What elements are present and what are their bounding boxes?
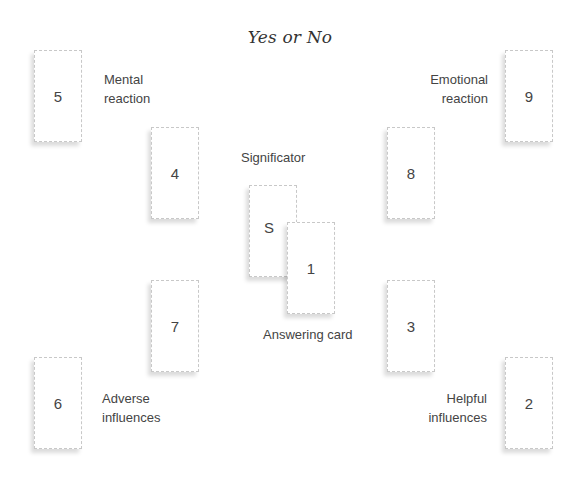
card-number: S xyxy=(264,219,274,236)
card-number: 1 xyxy=(307,260,315,277)
card-5[interactable]: 5 xyxy=(34,50,82,142)
card-number: 4 xyxy=(171,165,179,182)
card-7[interactable]: 7 xyxy=(151,280,199,372)
label-helpful-influences: Helpful influences xyxy=(396,389,487,427)
label-line: Adverse xyxy=(102,389,161,408)
spread-title: Yes or No xyxy=(240,27,340,47)
card-3[interactable]: 3 xyxy=(387,280,435,372)
label-answering-card: Answering card xyxy=(263,325,353,344)
card-6[interactable]: 6 xyxy=(34,357,82,449)
label-mental-reaction: Mental reaction xyxy=(104,70,150,108)
card-8[interactable]: 8 xyxy=(387,127,435,219)
card-1[interactable]: 1 xyxy=(287,222,335,314)
card-number: 8 xyxy=(407,165,415,182)
label-line: reaction xyxy=(396,89,488,108)
card-4[interactable]: 4 xyxy=(151,127,199,219)
label-line: Mental xyxy=(104,70,150,89)
card-number: 3 xyxy=(407,318,415,335)
card-number: 2 xyxy=(525,395,533,412)
card-number: 9 xyxy=(525,88,533,105)
label-line: influences xyxy=(102,408,161,427)
label-line: Emotional xyxy=(396,70,488,89)
card-number: 7 xyxy=(171,318,179,335)
label-significator: Significator xyxy=(241,148,305,167)
label-adverse-influences: Adverse influences xyxy=(102,389,161,427)
label-line: influences xyxy=(396,408,487,427)
label-emotional-reaction: Emotional reaction xyxy=(396,70,488,108)
card-2[interactable]: 2 xyxy=(505,357,553,449)
label-line: Helpful xyxy=(396,389,487,408)
card-number: 5 xyxy=(54,88,62,105)
label-line: reaction xyxy=(104,89,150,108)
card-number: 6 xyxy=(54,395,62,412)
card-9[interactable]: 9 xyxy=(505,50,553,142)
